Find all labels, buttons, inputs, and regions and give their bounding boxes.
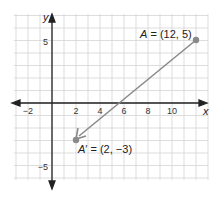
svg-text:−2: −2 [23,106,33,116]
point-a-prime-label: A′ = (2, −3) [77,143,132,155]
svg-text:6: 6 [121,106,126,116]
point-a-label: A = (12, 5) [139,28,192,40]
y-tick-labels: 5−5 [38,37,48,172]
svg-text:4: 4 [97,106,102,116]
x-axis [12,100,207,106]
x-axis-label: x [202,105,209,117]
svg-text:10: 10 [167,106,177,116]
svg-text:−5: −5 [38,162,48,172]
svg-text:5: 5 [43,37,48,47]
svg-text:8: 8 [145,106,150,116]
point-a [193,37,199,43]
svg-text:2: 2 [73,106,78,116]
x-tick-labels: −2246810 [23,106,177,116]
coordinate-plane: x y −2246810 5−5 A = (12, 5) A′ = (2, −3… [0,0,222,198]
